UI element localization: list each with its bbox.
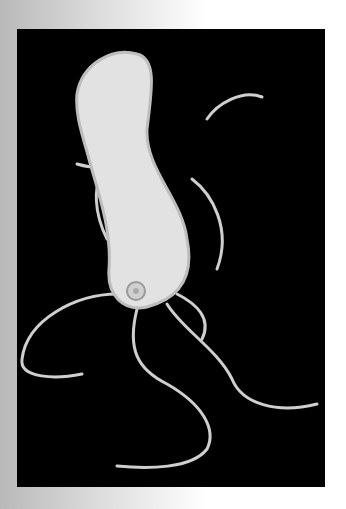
flagellum xyxy=(117,309,210,467)
flagellum xyxy=(192,179,222,269)
flagellum xyxy=(22,294,117,377)
flagellum xyxy=(167,304,317,408)
bacterium-illustration xyxy=(17,29,325,487)
cell-body xyxy=(77,52,189,307)
micrograph-panel xyxy=(17,29,325,487)
flagellum xyxy=(207,95,262,119)
